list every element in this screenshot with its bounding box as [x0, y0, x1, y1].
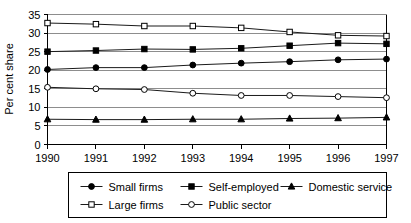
marker-open-circle	[238, 93, 244, 99]
marker-open-square	[384, 33, 389, 38]
marker-open-circle	[335, 94, 341, 100]
x-tick-label: 1990	[35, 152, 59, 164]
marker-filled-circle	[190, 62, 196, 68]
x-tick-label: 1993	[181, 152, 205, 164]
marker-filled-circle	[287, 59, 293, 65]
legend-label: Small firms	[109, 181, 164, 193]
marker-open-circle	[189, 202, 195, 208]
chart-figure: 0510152025303519901991199219931994199519…	[0, 0, 411, 223]
marker-open-circle	[141, 87, 147, 93]
marker-filled-square	[287, 43, 292, 48]
marker-open-square	[239, 25, 244, 30]
marker-filled-circle	[89, 184, 95, 190]
y-tick-label: 35	[28, 9, 40, 21]
marker-filled-square	[93, 48, 98, 53]
marker-filled-triangle	[189, 116, 196, 122]
marker-open-square	[287, 29, 292, 34]
y-tick-label: 30	[28, 27, 40, 39]
y-axis-title: Per cent share	[3, 43, 15, 115]
legend: Small firmsSelf-employedDomestic service…	[69, 173, 393, 218]
marker-filled-circle	[238, 60, 244, 66]
x-tick-label: 1996	[326, 152, 350, 164]
marker-filled-square	[239, 46, 244, 51]
marker-filled-square	[45, 49, 50, 54]
x-tick-label: 1995	[277, 152, 301, 164]
marker-filled-circle	[93, 65, 99, 71]
marker-open-circle	[93, 86, 99, 92]
y-tick-label: 25	[28, 46, 40, 58]
legend-label: Large firms	[109, 199, 165, 211]
series-public-sector	[45, 84, 390, 100]
x-tick-labels: 19901991199219931994199519961997	[35, 145, 398, 164]
marker-filled-square	[189, 184, 194, 189]
marker-open-square	[335, 33, 340, 38]
marker-open-circle	[287, 93, 293, 99]
series-large-firms	[45, 20, 389, 38]
marker-open-square	[45, 20, 50, 25]
marker-open-square	[190, 23, 195, 28]
y-tick-label: 5	[34, 120, 40, 132]
y-tick-label: 0	[34, 139, 40, 151]
x-tick-label: 1994	[229, 152, 253, 164]
marker-filled-circle	[335, 57, 341, 63]
legend-box	[69, 173, 387, 218]
series-self-employed	[45, 40, 389, 54]
marker-open-circle	[190, 90, 196, 96]
marker-filled-circle	[141, 65, 147, 71]
x-tick-label: 1991	[84, 152, 108, 164]
y-tick-label: 15	[28, 83, 40, 95]
marker-open-square	[93, 21, 98, 26]
marker-filled-triangle	[44, 116, 51, 122]
marker-open-circle	[45, 84, 51, 90]
marker-filled-square	[335, 40, 340, 45]
y-tick-labels: 05101520253035	[28, 9, 47, 151]
y-tick-label: 20	[28, 64, 40, 76]
marker-filled-square	[384, 41, 389, 46]
marker-open-square	[89, 202, 94, 207]
marker-filled-triangle	[383, 114, 390, 120]
legend-label: Domestic service	[309, 181, 393, 193]
x-tick-label: 1992	[132, 152, 156, 164]
y-tick-label: 10	[28, 101, 40, 113]
marker-open-square	[142, 23, 147, 28]
legend-label: Public sector	[209, 199, 272, 211]
x-tick-label: 1997	[374, 152, 398, 164]
marker-filled-square	[190, 47, 195, 52]
marker-filled-circle	[45, 67, 51, 73]
marker-filled-circle	[384, 56, 390, 62]
y-gridlines	[48, 15, 387, 126]
marker-open-circle	[384, 95, 390, 101]
legend-label: Self-employed	[209, 181, 279, 193]
line-chart: 0510152025303519901991199219931994199519…	[0, 0, 411, 223]
marker-filled-square	[142, 46, 147, 51]
series-domestic-service	[44, 114, 390, 122]
